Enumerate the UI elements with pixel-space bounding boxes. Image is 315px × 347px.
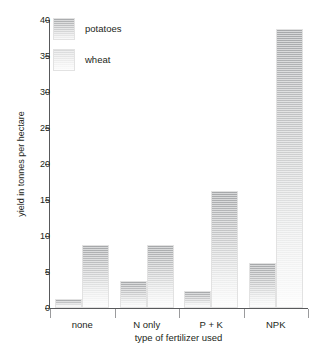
bar-wheat-PK: [211, 191, 238, 308]
legend-label-wheat: wheat: [85, 54, 110, 65]
bar-potatoes-none: [55, 299, 82, 308]
bar-potatoes-PK: [184, 291, 211, 308]
x-axis-separator: [50, 309, 51, 318]
x-axis-separator: [115, 309, 116, 318]
bar-potatoes-NPK: [249, 263, 276, 308]
y-axis-tick-label: 20: [26, 160, 50, 169]
y-axis-tick-label: 40: [26, 16, 50, 25]
y-axis-tick-label: 10: [26, 232, 50, 241]
bar-wheat-Nonly: [147, 245, 174, 308]
y-axis-tick-label: 30: [26, 88, 50, 97]
y-axis-tick-label: 25: [26, 124, 50, 133]
bar-wheat-NPK: [276, 29, 303, 308]
bar-wheat-none: [82, 245, 109, 308]
legend-swatch-wheat: [53, 49, 75, 71]
x-axis-title: type of fertilizer used: [49, 332, 308, 343]
legend-label-potatoes: potatoes: [85, 23, 121, 34]
x-axis-tick-label-NPK: NPK: [244, 319, 309, 330]
y-axis-tick-label: 35: [26, 52, 50, 61]
x-axis-separator: [244, 309, 245, 318]
bar-chart: yield in tonnes per hectare 051015202530…: [0, 0, 315, 347]
legend-swatch-potatoes: [53, 18, 75, 40]
y-axis-tick-label: 15: [26, 196, 50, 205]
y-axis-tick-label: 5: [26, 268, 50, 277]
x-axis-tick-label-Nonly: N only: [115, 319, 180, 330]
x-axis-tick-label-PK: P + K: [179, 319, 244, 330]
x-axis-separator: [308, 309, 309, 318]
y-axis-tick-label: 0: [26, 304, 50, 313]
x-axis-tick-label-none: none: [50, 319, 115, 330]
bar-potatoes-Nonly: [120, 281, 147, 308]
x-axis-separator: [179, 309, 180, 318]
